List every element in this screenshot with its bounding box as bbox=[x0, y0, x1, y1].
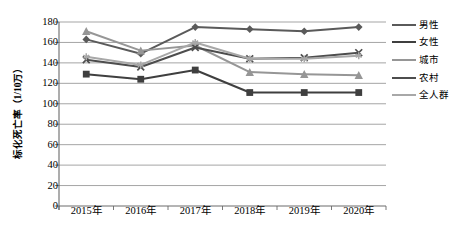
line-chart: 标化死亡率（1/10万） 180160140120100806040200 20… bbox=[0, 0, 454, 243]
x-axis-tick-label: 2020年 bbox=[332, 202, 386, 217]
legend-swatch bbox=[392, 36, 416, 48]
y-axis-tick-label: 40 bbox=[22, 160, 58, 170]
legend-item-asterisk[interactable]: 全人群 bbox=[392, 86, 454, 104]
legend-label: 城市 bbox=[419, 54, 439, 66]
data-point-triangle bbox=[82, 27, 90, 35]
x-axis-tick-label: 2015年 bbox=[59, 202, 113, 217]
data-point-square bbox=[83, 71, 90, 78]
legend-marker-x bbox=[392, 72, 400, 80]
y-axis-tick-label: 80 bbox=[22, 119, 58, 129]
legend-swatch bbox=[392, 19, 416, 31]
data-point-diamond bbox=[191, 23, 199, 31]
legend-marker-triangle bbox=[392, 54, 400, 62]
series-1 bbox=[83, 67, 362, 96]
legend-label: 农村 bbox=[419, 72, 439, 84]
data-point-square bbox=[246, 89, 253, 96]
y-axis-tick-labels: 180160140120100806040200 bbox=[22, 0, 58, 243]
x-axis-tick-label: 2018年 bbox=[223, 202, 277, 217]
data-point-diamond bbox=[300, 27, 308, 35]
data-point-diamond bbox=[355, 23, 363, 31]
y-axis-tick-label: 20 bbox=[22, 181, 58, 191]
legend-label: 全人群 bbox=[419, 89, 449, 101]
data-point-square bbox=[137, 76, 144, 83]
legend-label: 男性 bbox=[419, 19, 439, 31]
legend-label: 女性 bbox=[419, 36, 439, 48]
data-point-square bbox=[355, 89, 362, 96]
y-axis-tick-label: 140 bbox=[22, 58, 58, 68]
y-axis-tick-label: 120 bbox=[22, 78, 58, 88]
y-axis-tick-label: 0 bbox=[22, 201, 58, 211]
legend-marker-asterisk bbox=[392, 89, 400, 97]
x-axis-tick-label: 2017年 bbox=[168, 202, 222, 217]
y-axis-tick-label: 100 bbox=[22, 99, 58, 109]
y-axis-tick-label: 60 bbox=[22, 140, 58, 150]
legend-marker-square bbox=[392, 36, 400, 44]
legend-item-square[interactable]: 女性 bbox=[392, 34, 454, 52]
legend-swatch bbox=[392, 54, 416, 66]
y-axis-tick-label: 160 bbox=[22, 37, 58, 47]
y-axis-tick-label: 180 bbox=[22, 17, 58, 27]
legend-item-triangle[interactable]: 城市 bbox=[392, 51, 454, 69]
legend-item-diamond[interactable]: 男性 bbox=[392, 16, 454, 34]
legend-item-x[interactable]: 农村 bbox=[392, 69, 454, 87]
data-point-square bbox=[301, 89, 308, 96]
legend-marker-diamond bbox=[392, 19, 400, 27]
data-point-square bbox=[192, 67, 199, 74]
chart-legend: 男性女性城市农村全人群 bbox=[392, 16, 454, 104]
legend-swatch bbox=[392, 89, 416, 101]
x-axis-tick-label: 2016年 bbox=[114, 202, 168, 217]
data-point-diamond bbox=[246, 25, 254, 33]
x-axis-tick-label: 2019年 bbox=[277, 202, 331, 217]
legend-swatch bbox=[392, 72, 416, 84]
